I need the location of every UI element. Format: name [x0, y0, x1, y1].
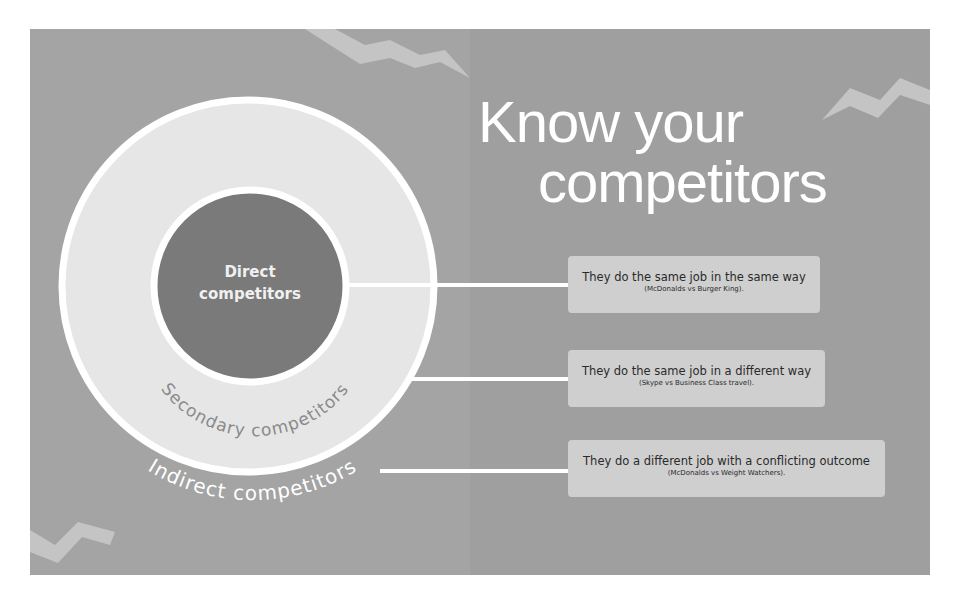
- description-main: They do the same job in the same way: [568, 270, 820, 284]
- description-box-direct: They do the same job in the same way (Mc…: [568, 256, 820, 313]
- description-example: (Skype vs Business Class travel).: [568, 378, 825, 388]
- description-main: They do the same job in a different way: [568, 364, 825, 378]
- page-title: Know your competitors: [478, 92, 827, 212]
- title-line-1: Know your: [478, 92, 827, 152]
- description-example: (McDonalds vs Burger King).: [568, 284, 820, 294]
- title-line-2: competitors: [478, 152, 827, 212]
- description-main: They do a different job with a conflicti…: [568, 454, 885, 468]
- description-box-secondary: They do the same job in a different way …: [568, 350, 825, 407]
- description-box-indirect: They do a different job with a conflicti…: [568, 440, 885, 497]
- direct-label-line1: Direct: [170, 261, 330, 283]
- description-example: (McDonalds vs Weight Watchers).: [568, 468, 885, 478]
- direct-competitors-label: Direct competitors: [170, 261, 330, 305]
- zigzag-decoration-bottom-left: [30, 522, 115, 563]
- direct-label-line2: competitors: [170, 283, 330, 305]
- zigzag-decoration-top: [305, 29, 470, 78]
- zigzag-decoration-right: [822, 78, 930, 120]
